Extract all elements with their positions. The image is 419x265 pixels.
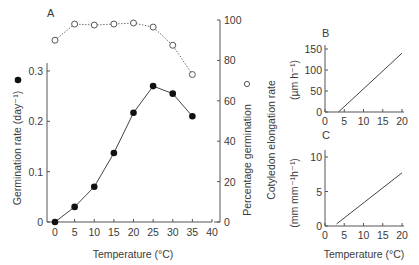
open-circle-marker [189, 72, 195, 78]
filled-circle-legend-icon [15, 77, 22, 84]
x-tick-label: 35 [187, 226, 199, 238]
panel-a-left-and-x-axis [47, 63, 212, 222]
panel-a-chart: A 0510152025303540 00.10.20.3 0204060801… [11, 7, 253, 260]
panel-c-chart: C 05101520 0510 (mm mm⁻¹h⁻¹) Temperature… [288, 129, 408, 260]
x-tick-label: 25 [147, 226, 159, 238]
left-y-label-text: Germination rate (day⁻¹) [11, 91, 23, 206]
panel-bc-shared-y-label: Cotyledon elongation rate [265, 80, 277, 200]
y-tick-label: 40 [224, 135, 236, 147]
panel-a-left-y-label: Germination rate (day⁻¹) [11, 91, 23, 206]
x-tick-label: 30 [167, 226, 179, 238]
open-circle-marker [170, 42, 176, 48]
y-tick-label: 0 [37, 216, 43, 228]
open-circle-legend-icon [244, 81, 249, 86]
panel-a-right-y-ticks: 020406080100 [217, 14, 242, 228]
cotyledon-elongation-label: Cotyledon elongation rate [265, 80, 277, 200]
panel-a-label: A [47, 7, 55, 19]
panel-b-y-unit-label: (µm h⁻¹) [288, 60, 300, 100]
open-circle-marker [91, 22, 97, 28]
x-tick-label: 15 [377, 229, 389, 241]
y-tick-label: 80 [224, 54, 236, 66]
panel-a-right-axis [214, 20, 220, 222]
x-tick-label: 10 [358, 115, 370, 127]
x-tick-label: 40 [206, 226, 218, 238]
percentage-germination-series [52, 20, 195, 78]
y-tick-label: 100 [224, 14, 242, 26]
germination-rate-series [52, 83, 196, 226]
elongation-rate-line [337, 173, 402, 224]
x-tick-label: 0 [322, 115, 328, 127]
right-y-label-text: Percentage germination [241, 104, 253, 216]
panel-c-x-axis-label: Temperature (°C) [324, 248, 405, 260]
panel-b-label: B [322, 27, 329, 39]
filled-circle-marker [169, 90, 176, 97]
y-tick-label: 5 [316, 186, 322, 198]
panel-c-y-unit-label: (mm mm⁻¹h⁻¹) [288, 158, 300, 228]
y-tick-label: 10 [310, 151, 322, 163]
open-circle-marker [52, 37, 58, 43]
filled-circle-marker [91, 183, 98, 190]
x-tick-label: 0 [322, 229, 328, 241]
x-tick-label: 10 [358, 229, 370, 241]
filled-circle-marker [130, 109, 137, 116]
open-circle-marker [150, 24, 156, 30]
panel-b-chart: B 05101520 050100150 (µm h⁻¹) [288, 27, 408, 127]
panel-c-axes [325, 150, 404, 226]
x-tick-label: 0 [52, 226, 58, 238]
x-tick-label: 20 [396, 229, 408, 241]
x-tick-label: 5 [341, 229, 347, 241]
x-tick-label: 5 [341, 115, 347, 127]
x-tick-label: 10 [88, 226, 100, 238]
y-tick-label: 0.2 [28, 115, 43, 127]
y-tick-label: 0 [224, 216, 230, 228]
panel-a-x-axis-label: Temperature (°C) [93, 248, 174, 260]
elongation-rate-line [338, 53, 402, 112]
figure: A 0510152025303540 00.10.20.3 0204060801… [0, 0, 419, 265]
open-circle-marker [72, 21, 78, 27]
panel-c-unit-text: (mm mm⁻¹h⁻¹) [288, 158, 300, 228]
x-tick-label: 20 [128, 226, 140, 238]
filled-circle-marker [71, 204, 78, 211]
filled-circle-marker [52, 219, 59, 226]
panel-b-line [338, 53, 402, 112]
y-tick-label: 0 [316, 106, 322, 118]
open-circle-marker [111, 21, 117, 27]
panel-b-y-ticks: 050100150 [304, 43, 328, 118]
panel-b-unit-text: (µm h⁻¹) [288, 60, 300, 100]
x-tick-label: 5 [72, 226, 78, 238]
panel-c-label: C [322, 129, 330, 141]
x-tick-label: 15 [377, 115, 389, 127]
open-circle-marker [131, 20, 137, 26]
y-tick-label: 0 [316, 220, 322, 232]
y-tick-label: 0.3 [28, 65, 43, 77]
panel-a-right-y-label: Percentage germination [241, 104, 253, 216]
filled-circle-marker [150, 83, 157, 90]
panel-c-line [337, 173, 402, 224]
y-tick-label: 50 [310, 85, 322, 97]
x-tick-label: 20 [396, 115, 408, 127]
panel-b-axes [325, 45, 404, 112]
y-tick-label: 20 [224, 176, 236, 188]
y-tick-label: 60 [224, 95, 236, 107]
percentage-germination-line [55, 23, 192, 75]
germination-rate-line [55, 86, 192, 222]
chart-canvas: A 0510152025303540 00.10.20.3 0204060801… [0, 0, 419, 265]
y-tick-label: 100 [304, 64, 322, 76]
y-tick-label: 150 [304, 43, 322, 55]
y-tick-label: 0.1 [28, 166, 43, 178]
filled-circle-marker [189, 113, 196, 120]
filled-circle-marker [111, 150, 118, 157]
x-tick-label: 15 [108, 226, 120, 238]
